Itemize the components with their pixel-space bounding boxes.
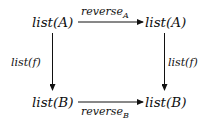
arrow-right-label: list(f) [168, 56, 198, 69]
node-top-right: list(A) [145, 14, 186, 30]
arrow-top-label-main: reverse [81, 5, 123, 18]
node-top-left: list(A) [32, 14, 73, 30]
arrow-bottom-label-subscript: B [122, 111, 129, 120]
node-bottom-left: list(B) [32, 94, 73, 110]
commutative-diagram: list(A) list(A) list(B) list(B) reverseA… [0, 0, 215, 125]
arrow-top-label-subscript: A [122, 11, 129, 20]
arrow-bottom-label-main: reverse [81, 105, 123, 118]
arrow-top-label: reverseA [81, 5, 129, 20]
node-bottom-right: list(B) [145, 94, 186, 110]
arrow-left-label: list(f) [11, 56, 41, 69]
arrow-bottom-label: reverseB [81, 105, 129, 120]
